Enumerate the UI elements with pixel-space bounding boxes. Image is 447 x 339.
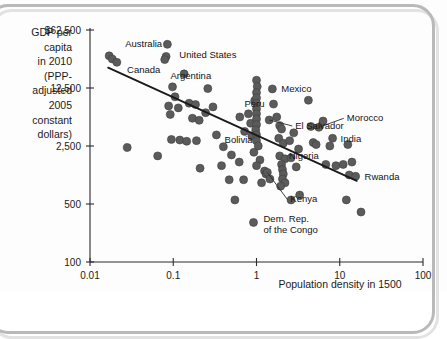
data-point — [348, 158, 356, 166]
country-label: Bolivia — [225, 134, 254, 145]
data-point — [312, 141, 320, 149]
data-point — [123, 143, 131, 151]
data-point — [227, 151, 235, 159]
y-axis-title-line: capita — [44, 41, 72, 53]
data-point — [231, 196, 239, 204]
data-point — [339, 160, 347, 168]
country-label: Argentina — [171, 70, 212, 81]
data-point — [113, 58, 121, 66]
y-axis-title-line: in 2010 — [38, 55, 73, 67]
data-point — [286, 137, 294, 145]
x-tick-label: 0.1 — [166, 270, 180, 281]
data-point — [167, 135, 175, 143]
y-axis-title-line: dollars) — [38, 128, 72, 140]
y-axis-title-line: constant — [32, 114, 72, 126]
data-point — [253, 162, 261, 170]
country-label: Australia — [125, 38, 163, 49]
data-point — [244, 110, 252, 118]
data-point — [258, 179, 266, 187]
data-point — [212, 131, 220, 139]
data-point — [225, 176, 233, 184]
data-point — [236, 113, 244, 121]
data-point — [161, 56, 169, 64]
data-point — [249, 218, 257, 226]
data-point — [278, 125, 286, 133]
data-point — [166, 110, 174, 118]
y-axis-title-line: 2005 — [49, 99, 73, 111]
country-labels: AustraliaCanadaUnited StatesArgentinaBol… — [125, 38, 400, 236]
data-point — [329, 134, 337, 142]
country-label: El Salvador — [295, 120, 344, 131]
y-tick-label: 500 — [64, 199, 81, 210]
country-label: Kenya — [290, 193, 318, 204]
data-point — [192, 137, 200, 145]
y-tick-label: 2,500 — [56, 141, 81, 152]
data-point — [304, 96, 312, 104]
data-point — [209, 103, 217, 111]
data-point — [342, 196, 350, 204]
data-point — [269, 100, 277, 108]
data-point — [357, 208, 365, 216]
country-label: Dem. Rep. — [263, 213, 308, 224]
y-tick-label: $62,500 — [45, 25, 82, 36]
data-point — [250, 148, 258, 156]
data-point — [240, 176, 248, 184]
country-label: Canada — [127, 64, 161, 75]
data-point — [154, 152, 162, 160]
data-point — [196, 164, 204, 172]
x-tick-label: 1 — [254, 270, 260, 281]
country-label: Peru — [244, 98, 264, 109]
y-tick-label: 100 — [64, 257, 81, 268]
y-axis-title-line: (PPP- — [44, 70, 73, 82]
data-point — [268, 85, 276, 93]
x-tick-label: 100 — [415, 270, 432, 281]
data-point — [195, 116, 203, 124]
data-point — [332, 162, 340, 170]
data-point — [165, 102, 173, 110]
x-axis-title: Population density in 1500 — [278, 278, 401, 290]
data-point — [235, 158, 243, 166]
data-point — [174, 104, 182, 112]
country-label: Rwanda — [365, 171, 401, 182]
country-label: United States — [179, 49, 236, 60]
data-point — [169, 83, 177, 91]
data-point — [326, 142, 334, 150]
data-point — [183, 137, 191, 145]
country-label: Nigeria — [289, 150, 320, 161]
y-tick-label: 12,500 — [50, 83, 81, 94]
country-label: of the Congo — [263, 224, 317, 235]
data-point — [273, 113, 281, 121]
x-tick-label: 0.01 — [80, 270, 100, 281]
data-point — [204, 85, 212, 93]
country-label: Morocco — [347, 112, 383, 123]
data-point — [292, 163, 300, 171]
data-point — [218, 162, 226, 170]
data-point — [163, 40, 171, 48]
country-label: India — [341, 133, 362, 144]
country-label: Mexico — [281, 83, 311, 94]
